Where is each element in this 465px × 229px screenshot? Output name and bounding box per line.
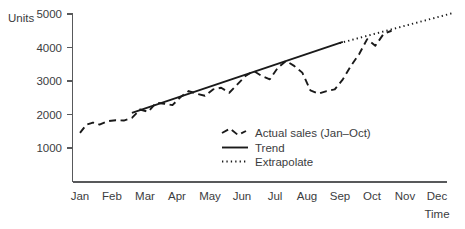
x-axis-labels: Jan Feb Mar Apr May Jun Jul Aug Sep Oct … (71, 190, 450, 220)
y-tick-label: 1000 (36, 142, 62, 154)
extrapolate-line (340, 13, 454, 43)
x-tick-label-sep: Sep (330, 190, 350, 202)
chart-legend: Actual sales (Jan–Oct) Trend Extrapolate (222, 127, 371, 168)
x-tick-label-mar: Mar (135, 190, 155, 202)
legend-label-actual-sales: Actual sales (Jan–Oct) (255, 127, 371, 139)
actual-sales-line (80, 31, 392, 133)
trend-line (132, 42, 343, 113)
y-tick-label: 2000 (36, 109, 62, 121)
y-axis-title: Units (8, 12, 34, 24)
y-tick-label: 3000 (36, 75, 62, 87)
x-tick-label-feb: Feb (102, 190, 122, 202)
y-tick-label: 5000 (36, 8, 62, 20)
legend-label-extrapolate: Extrapolate (255, 156, 313, 168)
x-tick-label-nov: Nov (395, 190, 416, 202)
sales-trend-chart: Units 5000 4000 3000 2000 1000 Jan Feb M… (0, 0, 465, 229)
x-tick-label-jan: Jan (71, 190, 90, 202)
x-tick-label-dec: Dec (427, 190, 448, 202)
x-tick-label-jun: Jun (233, 190, 252, 202)
x-tick-label-jul: Jul (268, 190, 283, 202)
x-tick-label-oct: Oct (363, 190, 382, 202)
x-tick-label-apr: Apr (168, 190, 186, 202)
y-axis-ticks: 5000 4000 3000 2000 1000 (36, 8, 72, 154)
x-tick-label-aug: Aug (297, 190, 317, 202)
x-axis-title: Time (424, 208, 449, 220)
y-tick-label: 4000 (36, 42, 62, 54)
chart-container: Units 5000 4000 3000 2000 1000 Jan Feb M… (0, 0, 465, 229)
x-tick-label-may: May (199, 190, 221, 202)
legend-label-trend: Trend (255, 142, 285, 154)
legend-marker-actual-sales (222, 129, 246, 136)
